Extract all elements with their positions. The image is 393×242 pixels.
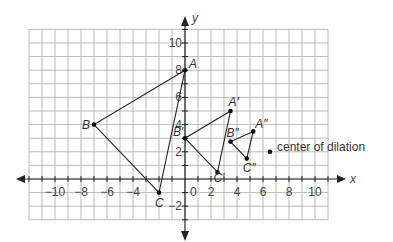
triangle-ABC [94, 70, 185, 192]
labels: ABCA′B′C′A″B″C″center of dilation [82, 57, 365, 209]
y-axis-down-arrow-icon [181, 231, 189, 241]
x-tick-label: 6 [260, 185, 267, 199]
vertex-point [92, 122, 97, 127]
x-axis-label: x [349, 172, 357, 186]
x-tick-label: −8 [74, 185, 88, 199]
vertex-label: C [155, 196, 164, 210]
x-tick-label: 8 [286, 185, 293, 199]
vertex-point [157, 190, 162, 195]
y-tick-label: 2 [175, 145, 182, 159]
center-of-dilation-point [268, 150, 273, 155]
vertex-label: B [82, 118, 90, 132]
x-tick-label: −10 [45, 185, 66, 199]
vertex-point [228, 139, 233, 144]
center-of-dilation-label: center of dilation [277, 140, 365, 154]
vertex-point [228, 109, 233, 114]
vertex-point [183, 136, 188, 141]
y-tick-label: −2 [168, 199, 182, 213]
x-tick-label: 2 [208, 185, 215, 199]
y-axis-up-arrow-icon [181, 16, 189, 26]
vertex-point [183, 68, 188, 73]
origin-label: 0 [190, 185, 197, 199]
vertex-label: A″ [254, 117, 268, 131]
x-tick-label: −4 [126, 185, 140, 199]
coordinate-plane: xy −10−8−6−4246810108642−20 ABCA′B′C′A″B… [0, 0, 393, 242]
x-axis-left-arrow-icon [16, 175, 25, 183]
vertex-label: B′ [173, 125, 184, 139]
y-tick-label: 10 [169, 36, 183, 50]
x-tick-label: −6 [100, 185, 114, 199]
vertex-label: A′ [228, 95, 240, 109]
vertex-label: C′ [214, 171, 226, 185]
x-axis-right-arrow-icon [337, 175, 346, 183]
x-tick-label: 10 [308, 185, 322, 199]
x-tick-label: 4 [234, 185, 241, 199]
vertex-label: A [188, 57, 197, 71]
vertex-label: C″ [243, 161, 257, 175]
vertex-label: B″ [227, 126, 240, 140]
y-axis-label: y [191, 11, 199, 25]
